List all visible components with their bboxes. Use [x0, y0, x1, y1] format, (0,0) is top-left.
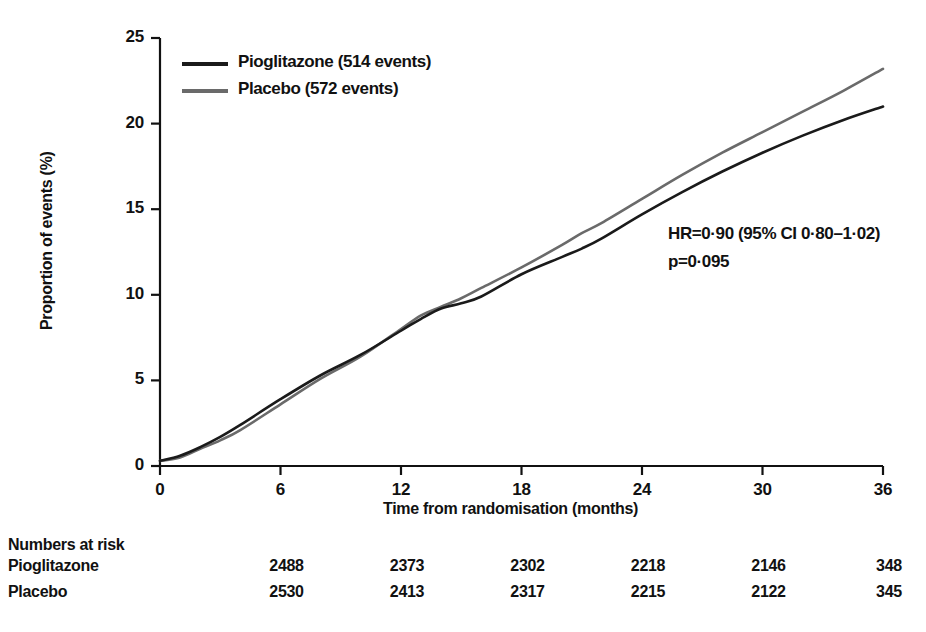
risk-table-cell: 2317	[498, 583, 558, 601]
risk-row-label: Pioglitazone	[8, 557, 99, 575]
y-tick-label: 10	[104, 284, 144, 304]
hazard-ratio-annotation: HR=0·90 (95% CI 0·80–1·02)	[668, 224, 880, 244]
kaplan-meier-figure: Proportion of events (%) 0510152025 0612…	[0, 0, 926, 632]
risk-table-cell: 345	[859, 583, 919, 601]
x-tick-label: 6	[261, 480, 301, 500]
risk-table-cell: 2413	[377, 583, 437, 601]
risk-table-cell: 2302	[498, 557, 558, 575]
x-axis-title: Time from randomisation (months)	[383, 500, 638, 518]
x-tick-label: 0	[140, 480, 180, 500]
p-value-annotation: p=0·095	[668, 252, 729, 272]
risk-row-label: Placebo	[8, 583, 67, 601]
risk-table-cell: 2146	[739, 557, 799, 575]
numbers-at-risk-heading: Numbers at risk	[8, 536, 926, 554]
risk-table-cell: 2215	[618, 583, 678, 601]
risk-table-row: Placebo25302413231722152122345	[8, 583, 926, 609]
risk-table-cell: 348	[859, 557, 919, 575]
risk-table-cell: 2122	[739, 583, 799, 601]
x-tick-label: 18	[502, 480, 542, 500]
y-tick-label: 0	[104, 455, 144, 475]
y-tick-label: 15	[104, 198, 144, 218]
x-tick-label: 12	[381, 480, 421, 500]
x-tick-label: 30	[743, 480, 783, 500]
legend-label-placebo: Placebo (572 events)	[238, 79, 398, 99]
x-tick-label: 24	[622, 480, 662, 500]
y-tick-label: 5	[104, 369, 144, 389]
y-tick-label: 20	[104, 113, 144, 133]
risk-table-cell: 2488	[257, 557, 317, 575]
numbers-at-risk-rows: Pioglitazone24882373230222182146348Place…	[8, 557, 926, 609]
curve-placebo	[160, 69, 883, 461]
risk-table-cell: 2530	[257, 583, 317, 601]
y-axis-title: Proportion of events (%)	[38, 151, 56, 330]
axis-layer	[151, 38, 883, 475]
x-tick-label: 36	[863, 480, 903, 500]
risk-table-cell: 2373	[377, 557, 437, 575]
legend-label-pioglitazone: Pioglitazone (514 events)	[238, 52, 431, 72]
legend-swatch-layer	[182, 64, 228, 91]
y-tick-label: 25	[104, 27, 144, 47]
numbers-at-risk-table: Numbers at risk Pioglitazone248823732302…	[8, 536, 926, 609]
curve-layer	[160, 69, 883, 461]
risk-table-cell: 2218	[618, 557, 678, 575]
risk-table-row: Pioglitazone24882373230222182146348	[8, 557, 926, 583]
curve-pioglitazone	[160, 106, 883, 460]
